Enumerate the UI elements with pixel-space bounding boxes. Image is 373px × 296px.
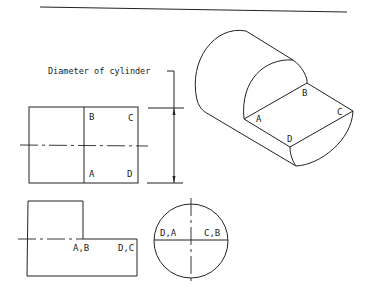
end-label-cb: C,B [204, 228, 220, 238]
iso-label-c: C [337, 107, 342, 117]
top-label-ab: A,B [73, 243, 89, 253]
end-view: D,A C,B [154, 198, 228, 284]
top-view-outline [27, 201, 137, 276]
title-rule [40, 7, 347, 12]
front-view: B C A D [20, 107, 148, 183]
front-label-c: C [128, 113, 133, 123]
top-view: A,B D,C [18, 201, 137, 276]
iso-back-end-arc [195, 30, 246, 115]
diameter-dimension: Diameter of cylinder [48, 66, 184, 183]
iso-label-b: B [302, 88, 307, 98]
iso-step-arc [244, 60, 308, 119]
front-label-b: B [89, 112, 94, 122]
front-view-centerline [20, 145, 148, 146]
arrow-down-icon [173, 176, 176, 183]
top-label-dc: D,C [118, 243, 134, 253]
dimension-leader [167, 71, 174, 108]
arrow-up-icon [173, 108, 176, 115]
front-label-a: A [89, 169, 95, 179]
front-label-d: D [127, 169, 132, 179]
iso-bottom-edge [210, 115, 296, 166]
iso-label-a: A [256, 114, 262, 124]
isometric-view: A B C D [195, 30, 353, 166]
dimension-label: Diameter of cylinder [48, 66, 150, 76]
technical-drawing: B C A D Diameter of cylinder A B C D [0, 0, 373, 296]
end-label-da: D,A [160, 228, 177, 238]
iso-top-edge [246, 31, 293, 60]
iso-label-d: D [287, 134, 292, 144]
